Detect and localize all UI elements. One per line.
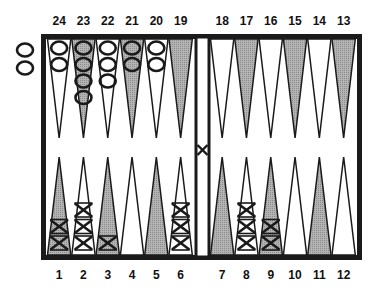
point-7[interactable] (211, 157, 234, 255)
point-label-18: 18 (210, 14, 234, 28)
point-label-11: 11 (307, 268, 331, 282)
point-5[interactable] (145, 157, 168, 255)
point-9[interactable] (259, 157, 282, 255)
point-label-3: 3 (96, 268, 120, 282)
point-13[interactable] (332, 39, 355, 138)
point-17[interactable] (235, 39, 258, 138)
point-16[interactable] (259, 39, 282, 138)
point-8[interactable] (235, 157, 258, 255)
point-label-5: 5 (144, 268, 168, 282)
point-3[interactable] (96, 157, 119, 255)
backgammon-board-diagram: 242322212019181716151413 123456789101112 (0, 0, 380, 296)
point-label-4: 4 (120, 268, 144, 282)
point-label-19: 19 (169, 14, 193, 28)
point-label-15: 15 (283, 14, 307, 28)
point-1[interactable] (48, 157, 71, 255)
point-14[interactable] (308, 39, 331, 138)
point-label-24: 24 (47, 14, 71, 28)
point-label-7: 7 (210, 268, 234, 282)
point-18[interactable] (211, 39, 234, 138)
point-6[interactable] (169, 157, 192, 255)
point-label-9: 9 (259, 268, 283, 282)
point-10[interactable] (283, 157, 306, 255)
point-label-21: 21 (120, 14, 144, 28)
point-12[interactable] (332, 157, 355, 255)
backgammon-board (0, 0, 380, 296)
point-19[interactable] (169, 39, 192, 138)
point-label-8: 8 (234, 268, 258, 282)
checker-o-borne-off[interactable] (17, 62, 33, 75)
point-label-16: 16 (259, 14, 283, 28)
point-label-22: 22 (96, 14, 120, 28)
point-label-14: 14 (307, 14, 331, 28)
point-label-6: 6 (169, 268, 193, 282)
checker-o-borne-off[interactable] (17, 44, 33, 57)
point-label-2: 2 (71, 268, 95, 282)
point-label-13: 13 (332, 14, 356, 28)
point-4[interactable] (120, 157, 143, 255)
point-11[interactable] (308, 157, 331, 255)
point-label-12: 12 (332, 268, 356, 282)
point-label-17: 17 (234, 14, 258, 28)
point-label-23: 23 (71, 14, 95, 28)
point-label-1: 1 (47, 268, 71, 282)
point-2[interactable] (72, 157, 95, 255)
point-label-20: 20 (144, 14, 168, 28)
point-15[interactable] (283, 39, 306, 138)
point-label-10: 10 (283, 268, 307, 282)
